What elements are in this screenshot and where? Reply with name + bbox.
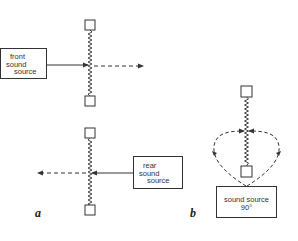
angle-label: 90° xyxy=(217,204,276,212)
anchor-square-bottom xyxy=(85,96,95,106)
front-sound-source-box: front sound source xyxy=(0,48,47,79)
anchor-square-top xyxy=(241,86,252,97)
spring-membrane-icon xyxy=(88,138,92,205)
sound-source-90-box: sound source 90° xyxy=(216,186,277,218)
right-dashed-path-arrow xyxy=(247,131,279,186)
left-dashed-path-arrow xyxy=(214,131,246,186)
anchor-square-bottom xyxy=(241,166,252,177)
panel-label-a: a xyxy=(35,206,41,221)
spring-membrane-icon xyxy=(88,30,92,96)
spring-membrane-icon xyxy=(245,97,249,166)
anchor-square-top xyxy=(85,20,95,30)
panel-b-membrane xyxy=(212,86,281,186)
rear-sound-source-box: rear sound source xyxy=(133,156,183,189)
panel-a-top-membrane xyxy=(47,20,143,106)
panel-a-bottom-membrane xyxy=(38,128,133,215)
anchor-square-top xyxy=(85,128,95,138)
right-mid-arrowhead xyxy=(276,151,281,156)
left-mid-arrowhead xyxy=(212,151,217,156)
source-label: source xyxy=(6,68,46,76)
panel-label-b: b xyxy=(190,206,196,221)
source-label: source xyxy=(139,177,182,185)
anchor-square-bottom xyxy=(85,205,95,215)
